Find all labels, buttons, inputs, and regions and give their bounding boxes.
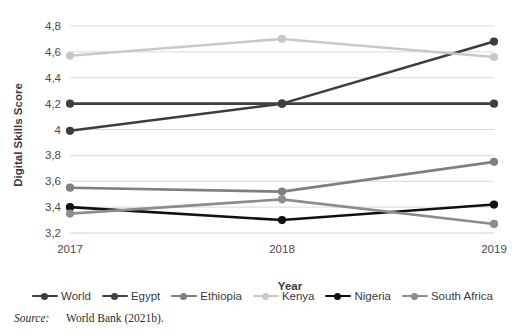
y-tick-label: 4,8 [45, 20, 61, 32]
y-tick-label: 4,4 [45, 72, 62, 84]
legend-item-world[interactable]: World [32, 290, 91, 302]
data-point [490, 158, 498, 166]
legend-item-ethiopia[interactable]: Ethiopia [171, 290, 242, 302]
data-point [490, 200, 498, 208]
legend-swatch-icon [32, 291, 58, 301]
data-point [278, 35, 286, 43]
legend-swatch-icon [253, 291, 279, 301]
data-point [278, 195, 286, 203]
chart-plot-area: 4,84,64,44,243,83,63,43,2 201720182019 D… [0, 0, 525, 310]
data-point [66, 100, 74, 108]
legend-item-nigeria[interactable]: Nigeria [325, 290, 390, 302]
line-chart-svg: 4,84,64,44,243,83,63,43,2 201720182019 D… [0, 0, 525, 310]
y-tick-label: 3,8 [45, 149, 61, 161]
x-tick-label: 2019 [481, 243, 507, 255]
legend-swatch-icon [171, 291, 197, 301]
data-point [66, 184, 74, 192]
data-point [66, 127, 74, 135]
data-point [66, 209, 74, 217]
series-line [70, 162, 494, 192]
legend-label: South Africa [431, 290, 493, 302]
figure: 4,84,64,44,243,83,63,43,2 201720182019 D… [0, 0, 525, 335]
y-axis-title: Digital Skills Score [12, 83, 24, 187]
series-nigeria [66, 200, 498, 224]
x-axis-tick-labels: 201720182019 [57, 243, 507, 255]
legend-item-kenya[interactable]: Kenya [253, 290, 315, 302]
legend-label: Ethiopia [200, 290, 242, 302]
data-point [490, 220, 498, 228]
y-tick-label: 4,6 [45, 46, 61, 58]
series-group [66, 35, 498, 228]
legend-swatch-icon [325, 291, 351, 301]
series-kenya [66, 35, 498, 61]
y-tick-label: 4 [55, 124, 62, 136]
data-point [490, 37, 498, 45]
x-tick-label: 2018 [269, 243, 295, 255]
legend-label: World [61, 290, 91, 302]
legend-swatch-icon [102, 291, 128, 301]
legend-label: Egypt [131, 290, 160, 302]
legend-label: Kenya [282, 290, 315, 302]
y-tick-label: 4,2 [45, 98, 61, 110]
source-label: Source: [14, 312, 66, 324]
y-tick-label: 3,2 [45, 227, 61, 239]
series-ethiopia [66, 158, 498, 196]
series-egypt [66, 100, 498, 108]
legend-swatch-icon [402, 291, 428, 301]
legend-item-egypt[interactable]: Egypt [102, 290, 160, 302]
legend-label: Nigeria [354, 290, 390, 302]
data-point [490, 53, 498, 61]
chart-legend: WorldEgyptEthiopiaKenyaNigeriaSouth Afri… [0, 286, 525, 306]
y-tick-label: 3,6 [45, 175, 61, 187]
x-tick-label: 2017 [57, 243, 83, 255]
source-text: World Bank (2021b). [66, 312, 164, 324]
data-point [66, 52, 74, 60]
y-tick-label: 3,4 [45, 201, 62, 213]
data-point [278, 188, 286, 196]
y-axis-tick-labels: 4,84,64,44,243,83,63,43,2 [45, 20, 62, 239]
data-point [278, 216, 286, 224]
series-line [70, 42, 494, 131]
legend-item-south-africa[interactable]: South Africa [402, 290, 493, 302]
source-note: Source: World Bank (2021b). [14, 312, 514, 324]
data-point [278, 100, 286, 108]
data-point [490, 100, 498, 108]
